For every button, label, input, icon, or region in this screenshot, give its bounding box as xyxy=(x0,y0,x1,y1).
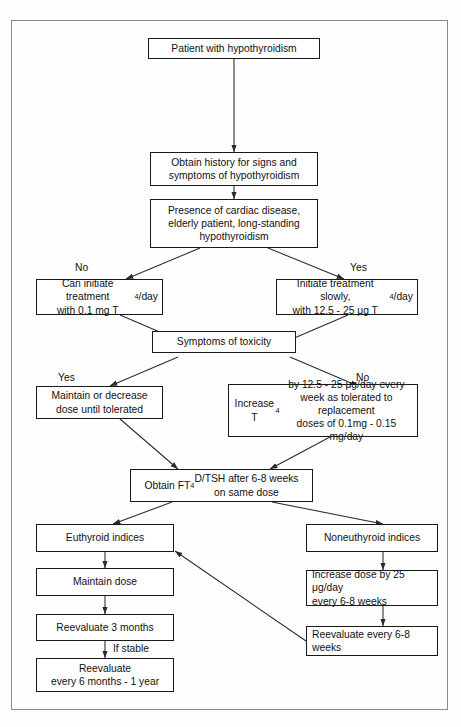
edge-presence-to-initiate-slowly xyxy=(268,248,344,279)
node-increase-dose-25: Increase dose by 25 μg/dayevery 6-8 week… xyxy=(306,570,438,606)
node-symptoms-toxicity: Symptoms of toxicity xyxy=(152,331,296,353)
node-maintain-dose: Maintain dose xyxy=(36,568,174,596)
node-noneuthyroid-indices: Noneuthyroid indices xyxy=(306,524,438,552)
node-can-initiate-treatment: Can initiate treatmentwith 0.1 mg T4/day xyxy=(36,279,163,315)
edge-label-yes-left: Yes xyxy=(58,372,75,383)
node-euthyroid-indices: Euthyroid indices xyxy=(36,524,174,552)
edge-reevaluate68-feedback-to-euthyroid xyxy=(175,551,306,641)
node-initiate-slowly: Initiate treatment slowly,with 12.5 - 25… xyxy=(276,279,418,315)
node-obtain-ft4d-tsh: Obtain FT4D/TSH after 6-8 weekson same d… xyxy=(130,469,313,502)
edge-obtain-to-euthyroid xyxy=(113,502,172,524)
node-reevaluate-3-months: Reevaluate 3 months xyxy=(36,614,174,641)
edge-toxicity-to-maintain xyxy=(110,357,178,386)
node-maintain-or-decrease: Maintain or decreasedose until tolerated xyxy=(36,386,163,419)
node-increase-t4: Increase T4 by 12.5 - 25 μg/day everywee… xyxy=(228,384,418,437)
node-reevaluate-6-months: Reevaluateevery 6 months - 1 year xyxy=(36,658,174,692)
edge-presence-to-can-initiate xyxy=(126,248,200,279)
node-presence-cardiac: Presence of cardiac disease,elderly pati… xyxy=(150,199,318,248)
edge-obtain-to-noneuthyroid xyxy=(272,502,383,524)
edge-label-if-stable: If stable xyxy=(113,643,149,654)
node-patient: Patient with hypothyroidism xyxy=(148,38,320,59)
edge-label-yes-right: Yes xyxy=(350,262,367,273)
node-obtain-history: Obtain history for signs andsymptoms of … xyxy=(150,152,318,186)
node-reevaluate-6-8-weeks: Reevaluate every 6-8 weeks xyxy=(306,626,438,656)
edge-label-no-left: No xyxy=(75,262,88,273)
edge-maintain-to-obtain xyxy=(120,419,178,469)
